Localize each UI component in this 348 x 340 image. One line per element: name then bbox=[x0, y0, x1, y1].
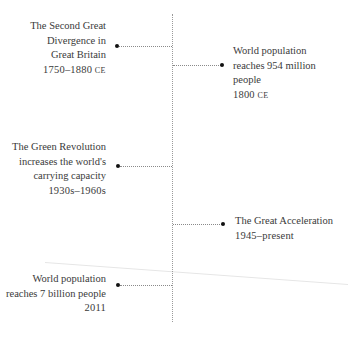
event-date: 1945–present bbox=[235, 229, 333, 244]
event-title-line: World population bbox=[6, 272, 106, 287]
event-connector bbox=[119, 46, 172, 47]
timeline-axis bbox=[172, 14, 173, 322]
event-connector bbox=[120, 166, 172, 167]
timeline-event-green-revolution: The Green Revolution increases the world… bbox=[12, 140, 106, 198]
event-title-line: The Green Revolution bbox=[12, 140, 106, 155]
event-connector bbox=[120, 285, 172, 286]
timeline-event-second-great-divergence: The Second Great Divergence in Great Bri… bbox=[30, 19, 106, 78]
event-marker-dot bbox=[220, 63, 224, 67]
timeline-event-great-acceleration: The Great Acceleration 1945–present bbox=[235, 214, 333, 243]
event-date: 1930s–1960s bbox=[12, 184, 106, 199]
event-title-line: people bbox=[233, 73, 316, 88]
event-marker-dot bbox=[116, 164, 120, 168]
event-title-line: Divergence in bbox=[30, 34, 106, 49]
event-marker-dot bbox=[116, 283, 120, 287]
event-connector bbox=[173, 224, 222, 225]
event-title-line: reaches 954 million bbox=[233, 59, 316, 74]
event-title-line: The Great Acceleration bbox=[235, 214, 333, 229]
event-date: 2011 bbox=[6, 301, 106, 316]
event-marker-dot bbox=[115, 44, 119, 48]
event-title-line: increases the world's bbox=[12, 155, 106, 170]
event-title-line: reaches 7 billion people bbox=[6, 287, 106, 302]
timeline-event-population-7-billion: World population reaches 7 billion peopl… bbox=[6, 272, 106, 316]
event-marker-dot bbox=[221, 222, 225, 226]
event-title-line: The Second Great bbox=[30, 19, 106, 34]
event-title-line: Great Britain bbox=[30, 48, 106, 63]
event-date: 1800 CE bbox=[233, 88, 316, 104]
event-title-line: World population bbox=[233, 44, 316, 59]
event-connector bbox=[173, 65, 221, 66]
event-title-line: carrying capacity bbox=[12, 169, 106, 184]
event-date: 1750–1880 CE bbox=[30, 63, 106, 79]
timeline-event-population-954-million: World population reaches 954 million peo… bbox=[233, 44, 316, 103]
